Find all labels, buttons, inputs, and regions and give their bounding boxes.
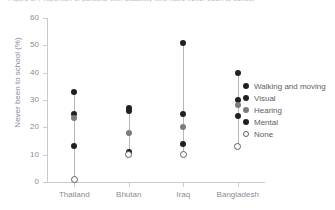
data-point xyxy=(71,115,77,121)
legend-marker-icon xyxy=(243,107,249,113)
data-point xyxy=(234,143,241,150)
y-tick-label: 0 xyxy=(13,178,39,186)
y-tick-label: 60 xyxy=(13,14,39,22)
data-point xyxy=(180,111,186,117)
y-tick-label: 30 xyxy=(13,96,39,104)
data-point xyxy=(235,102,241,108)
y-tick-label: 10 xyxy=(13,151,39,159)
y-tick-label: 50 xyxy=(13,41,39,49)
legend-marker-icon xyxy=(243,131,249,137)
range-stem xyxy=(183,43,184,155)
chart-legend: Walking and movingVisualHearingMentalNon… xyxy=(243,80,335,140)
legend-label: Walking and moving xyxy=(254,82,326,91)
data-point xyxy=(180,151,187,158)
legend-label: None xyxy=(254,130,273,139)
data-point xyxy=(180,40,186,46)
y-tick-mark xyxy=(43,182,47,183)
data-point xyxy=(71,176,78,183)
x-tick-mark xyxy=(238,183,239,187)
legend-marker-icon xyxy=(243,83,249,89)
chart-title: Figure 3. Proportion of persons with dis… xyxy=(8,0,328,2)
plot-area xyxy=(47,18,264,182)
chart-figure: Figure 3. Proportion of persons with dis… xyxy=(0,0,335,210)
data-point xyxy=(125,151,132,158)
data-point xyxy=(235,113,241,119)
legend-marker-icon xyxy=(243,119,249,125)
range-stem xyxy=(238,73,239,147)
legend-label: Visual xyxy=(254,94,276,103)
data-point xyxy=(126,130,132,136)
data-point xyxy=(126,108,132,114)
data-point xyxy=(235,70,241,76)
x-tick-mark xyxy=(74,183,75,187)
x-axis-line xyxy=(47,182,265,183)
range-stem xyxy=(74,92,75,179)
legend-item[interactable]: Hearing xyxy=(243,104,335,116)
legend-item[interactable]: Mental xyxy=(243,116,335,128)
y-tick-label: 40 xyxy=(13,69,39,77)
x-tick-mark xyxy=(183,183,184,187)
x-tick-mark xyxy=(129,183,130,187)
data-point xyxy=(180,124,186,130)
legend-item[interactable]: Walking and moving xyxy=(243,80,335,92)
legend-item[interactable]: None xyxy=(243,128,335,140)
data-point xyxy=(180,141,186,147)
legend-label: Mental xyxy=(254,118,278,127)
y-tick-label: 20 xyxy=(13,123,39,131)
x-tick-label-bangladesh: Bangladesh xyxy=(203,190,273,199)
data-point xyxy=(71,143,77,149)
data-point xyxy=(71,89,77,95)
legend-item[interactable]: Visual xyxy=(243,92,335,104)
legend-marker-icon xyxy=(243,95,249,101)
legend-label: Hearing xyxy=(254,106,282,115)
